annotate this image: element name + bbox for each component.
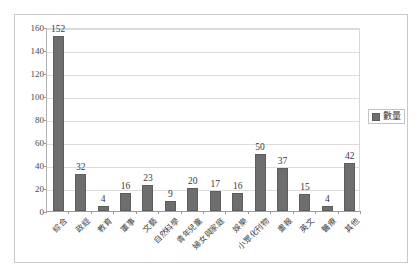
x-axis-tick-mark [158,211,159,214]
x-axis-tick-label: 教育 [96,216,114,234]
bar[interactable] [210,191,221,211]
y-axis-tick-label: 80 [18,116,44,125]
x-axis-tick-mark [203,211,204,214]
bar[interactable] [299,194,310,211]
bar[interactable] [277,168,288,211]
x-axis-tick-label: 軍事 [119,216,137,234]
bar-slot: 152 [47,29,69,211]
bar-slot: 42 [339,29,361,211]
x-axis-tick-label: 文藝 [141,216,159,234]
x-axis-tick-mark [315,211,316,214]
bar[interactable] [120,193,131,211]
chart-legend: 數量 [368,109,405,124]
y-axis-tick-label: 140 [18,47,44,56]
x-axis-tick-label: 醫療 [321,216,339,234]
y-axis-tick-label: 160 [18,24,44,33]
bar-slot: 50 [249,29,271,211]
bar[interactable] [165,201,176,211]
y-axis: 020406080100120140160 [15,28,44,212]
y-axis-tick-label: 20 [18,185,44,194]
plot-area: 15232416239201716503715442 [46,28,360,212]
y-axis-tick-label: 60 [18,139,44,148]
bar[interactable] [187,188,198,211]
y-axis-tick-label: 120 [18,70,44,79]
x-axis-tick-label: 其他 [343,216,361,234]
bar[interactable] [53,36,64,211]
bar[interactable] [75,174,86,211]
bar-slot: 16 [114,29,136,211]
bar-slot: 16 [226,29,248,211]
y-axis-tick-label: 0 [18,208,44,217]
bar-slot: 32 [69,29,91,211]
x-axis-labels: 綜合政經教育軍事文藝自然科學青年兒童婦女與家庭娛樂小眾化刊物畫報英文醫療其他 [46,213,360,275]
legend-label: 數量 [383,112,401,121]
bar-slot: 15 [294,29,316,211]
x-axis-tick-mark [136,211,137,214]
bar[interactable] [344,163,355,211]
bar-slot: 4 [316,29,338,211]
bar[interactable] [98,206,109,211]
y-axis-tick-label: 100 [18,93,44,102]
bar[interactable] [322,206,333,211]
bar-value-label: 42 [334,151,365,161]
y-axis-tick-label: 40 [18,162,44,171]
x-axis-tick-mark [68,211,69,214]
x-axis-tick-mark [181,211,182,214]
chart-frame: 020406080100120140160 152324162392017165… [14,14,408,263]
x-axis-tick-mark [293,211,294,214]
x-axis-tick-mark [270,211,271,214]
x-axis-tick-mark [338,211,339,214]
x-axis-tick-label: 娛樂 [231,216,249,234]
x-axis-tick-mark [248,211,249,214]
legend-swatch-icon [372,113,380,121]
x-axis-tick-label: 綜合 [52,216,70,234]
bar[interactable] [142,185,153,211]
x-axis-tick-label: 英文 [298,216,316,234]
x-axis-tick-mark [91,211,92,214]
x-axis-tick-label: 畫報 [276,216,294,234]
x-axis-tick-mark [360,211,361,214]
x-axis-tick-label: 政經 [74,216,92,234]
x-axis-tick-mark [225,211,226,214]
bar-slot: 23 [137,29,159,211]
bar[interactable] [232,193,243,211]
bar[interactable] [255,154,266,212]
x-axis-tick-mark [113,211,114,214]
